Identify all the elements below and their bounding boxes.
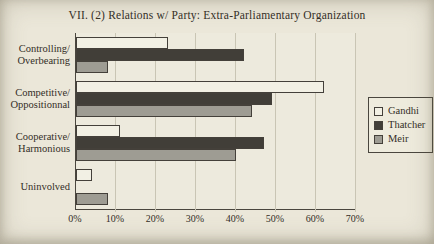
bar-thatcher [76,137,264,149]
bar-gandhi [76,169,92,181]
legend-item-meir: Meir [374,133,425,145]
x-tick-label: 0% [68,213,81,224]
x-tick-label: 40% [226,213,244,224]
category-label-line: Cooperative/ [0,131,70,143]
category-label: Uninvolved [0,165,70,209]
bar-gandhi [76,37,168,49]
x-tick-label: 30% [186,213,204,224]
bar-group-2 [76,77,356,121]
legend-label: Gandhi [388,105,419,117]
bar-group-3 [76,121,356,165]
bar-group-1 [76,33,356,77]
legend: GandhiThatcherMeir [368,97,433,153]
category-label-line: Harmonious [0,143,70,155]
legend-swatch-icon [374,135,383,144]
bar-meir [76,105,252,117]
category-axis: Controlling/OverbearingCompetitive/Oppos… [0,33,70,209]
plot-area [75,33,356,210]
x-axis: 0%10%20%30%40%50%60%70% [75,213,355,227]
scanned-book-page: VII. (2) Relations w/ Party: Extra-Parli… [0,0,434,244]
legend-label: Meir [388,133,408,145]
legend-item-gandhi: Gandhi [374,105,425,117]
x-tick-label: 60% [306,213,324,224]
category-label: Controlling/Overbearing [0,33,70,77]
bar-thatcher [76,93,272,105]
legend-swatch-icon [374,121,383,130]
bar-meir [76,61,108,73]
bar-gandhi [76,125,120,137]
chart-title: VII. (2) Relations w/ Party: Extra-Parli… [0,9,434,21]
bar-meir [76,149,236,161]
bar-meir [76,193,108,205]
legend-item-thatcher: Thatcher [374,119,425,131]
x-tick-label: 10% [106,213,124,224]
category-label: Competitive/Oppositionnal [0,77,70,121]
category-label-line: Uninvolved [0,181,70,193]
legend-label: Thatcher [388,119,425,131]
bar-group-4 [76,165,356,209]
x-tick-label: 50% [266,213,284,224]
category-label-line: Controlling/ [0,43,70,55]
bar-thatcher [76,49,244,61]
category-label-line: Competitive/ [0,87,70,99]
category-label: Cooperative/Harmonious [0,121,70,165]
x-tick-label: 70% [346,213,364,224]
x-tick-label: 20% [146,213,164,224]
category-label-line: Oppositionnal [0,99,70,111]
bar-gandhi [76,81,324,93]
category-label-line: Overbearing [0,55,70,67]
legend-swatch-icon [374,107,383,116]
